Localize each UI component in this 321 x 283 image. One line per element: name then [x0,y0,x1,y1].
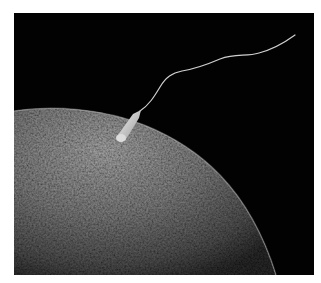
sperm-flagellum [140,35,295,111]
egg-cell [14,108,276,275]
micrograph-svg [14,13,314,275]
micrograph-image [14,13,314,275]
